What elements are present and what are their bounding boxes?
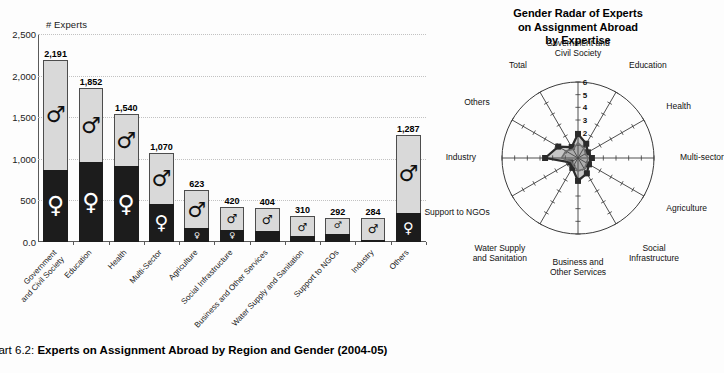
radar-tick bbox=[563, 179, 568, 182]
male-gender-icon: ♂ bbox=[368, 224, 379, 236]
female-gender-icon: ♀ bbox=[403, 221, 414, 236]
radar-axis-label-line: Agriculture bbox=[666, 204, 707, 214]
bar-total-label: 310 bbox=[295, 205, 310, 215]
bar-segment-female[interactable] bbox=[361, 240, 386, 242]
radar-data-marker bbox=[555, 144, 561, 150]
radar-data-marker bbox=[575, 131, 581, 137]
bar-total-label: 2,191 bbox=[44, 49, 67, 59]
radar-tick bbox=[601, 201, 606, 204]
y-axis-tick: 1,000 bbox=[12, 153, 36, 164]
radar-axis-label: SocialInfrastructure bbox=[629, 244, 679, 263]
radar-tick bbox=[621, 181, 624, 186]
radar-tick bbox=[557, 124, 562, 127]
radar-axis-label-line: Health bbox=[666, 102, 691, 112]
female-gender-icon: ♀ bbox=[47, 195, 64, 218]
caption-number: hart 6.2: bbox=[0, 344, 34, 356]
radar-title-line-2: on Assignment Abroad bbox=[432, 21, 724, 35]
bar-group[interactable]: 623♂♀ bbox=[184, 190, 209, 242]
x-axis-label-line: Others bbox=[388, 248, 411, 272]
radar-axis-label-line: Other Services bbox=[550, 268, 606, 278]
bar-segment-female[interactable]: ♀ bbox=[79, 162, 104, 242]
x-axis-label: Multi-Sector bbox=[128, 248, 164, 286]
x-axis-label-line: Education bbox=[63, 248, 94, 281]
radar-axis-label-line: and Sanitation bbox=[473, 254, 527, 264]
radar-tick bbox=[588, 135, 593, 138]
bar-group[interactable]: 292♂ bbox=[325, 218, 350, 242]
bar-segment-female[interactable]: ♀ bbox=[149, 204, 174, 242]
bar-group[interactable]: 2,191♂♀ bbox=[43, 60, 68, 242]
bar-group[interactable]: 284♂ bbox=[361, 218, 386, 242]
bar-group[interactable]: 1,540♂♀ bbox=[114, 114, 139, 242]
female-gender-icon: ♀ bbox=[154, 214, 168, 233]
radar-tick bbox=[538, 91, 543, 94]
radar-tick bbox=[533, 130, 536, 135]
bar-total-label: 292 bbox=[330, 207, 345, 217]
radar-tick bbox=[550, 201, 555, 204]
radar-tick bbox=[614, 223, 619, 226]
radar-scale-label: 3 bbox=[583, 116, 587, 125]
radar-tick bbox=[595, 124, 600, 127]
radar-tick bbox=[533, 181, 536, 186]
bar-segment-male[interactable]: 420♂ bbox=[220, 207, 245, 229]
radar-scale-label: 6 bbox=[583, 78, 587, 87]
y-axis-tick: 1,500 bbox=[12, 112, 36, 123]
radar-axis-label: Industry bbox=[446, 153, 476, 163]
bar-group[interactable]: 1,852♂♀ bbox=[79, 88, 104, 242]
bar-total-label: 1,852 bbox=[80, 77, 103, 87]
radar-data-marker bbox=[584, 170, 590, 176]
bar-segment-male[interactable]: 404♂ bbox=[255, 208, 280, 231]
bar-segment-male[interactable]: 623♂ bbox=[184, 190, 209, 228]
bar-group[interactable]: 404♂ bbox=[255, 208, 280, 242]
x-axis-label: Business and Other Services bbox=[193, 248, 270, 330]
bar-segment-female[interactable]: ♀ bbox=[114, 166, 139, 242]
radar-axis-label: Education bbox=[629, 61, 667, 70]
radar-scale-label: 4 bbox=[583, 103, 587, 112]
radar-tick bbox=[607, 212, 612, 215]
radar-data-marker bbox=[589, 155, 595, 161]
bar-group[interactable]: 1,287♂♀ bbox=[396, 135, 421, 242]
bar-segment-male[interactable]: 310♂ bbox=[290, 216, 315, 236]
bar-segment-female[interactable] bbox=[255, 231, 280, 242]
x-axis-label: Others bbox=[388, 248, 411, 272]
x-axis-label-line: Water Supply and Sanitation bbox=[230, 248, 306, 328]
bar-segment-female[interactable] bbox=[290, 236, 315, 242]
radar-tick bbox=[511, 194, 514, 199]
radar-axis-label: Support to NGOs bbox=[424, 208, 489, 218]
bar-segment-male[interactable]: 292♂ bbox=[325, 218, 350, 234]
x-axis-label: Governmentand Civil Society bbox=[11, 248, 65, 304]
bar-segment-female[interactable]: ♀ bbox=[396, 213, 421, 242]
radar-tick bbox=[621, 130, 624, 135]
bar-total-label: 284 bbox=[366, 207, 381, 217]
bar-total-label: 623 bbox=[189, 179, 204, 189]
bar-segment-male[interactable]: 1,852♂ bbox=[79, 88, 104, 162]
bar-segment-male[interactable]: 1,287♂ bbox=[396, 135, 421, 213]
radar-tick bbox=[522, 124, 525, 129]
bar-segment-male[interactable]: 1,540♂ bbox=[114, 114, 139, 166]
female-gender-icon: ♀ bbox=[229, 232, 235, 240]
bar-segment-female[interactable]: ♀ bbox=[220, 230, 245, 242]
bar-segment-male[interactable]: 1,070♂ bbox=[149, 153, 174, 204]
gridline bbox=[38, 34, 426, 35]
radar-axis-label-line: Education bbox=[629, 61, 667, 70]
bar-group[interactable]: 420♂♀ bbox=[220, 207, 245, 242]
radar-tick bbox=[599, 143, 602, 148]
bar-segment-female[interactable]: ♀ bbox=[184, 228, 209, 242]
radar-tick bbox=[610, 137, 613, 142]
radar-tick bbox=[550, 113, 555, 116]
bar-segment-female[interactable] bbox=[325, 234, 350, 242]
male-gender-icon: ♂ bbox=[81, 115, 101, 137]
bar-segment-female[interactable]: ♀ bbox=[43, 170, 68, 242]
radar-axis-label: Others bbox=[464, 98, 490, 108]
bar-group[interactable]: 1,070♂♀ bbox=[149, 153, 174, 242]
radar-axis-label: Water Supplyand Sanitation bbox=[473, 244, 527, 263]
bar-segment-male[interactable]: 284♂ bbox=[361, 218, 386, 240]
radar-tick bbox=[632, 187, 635, 192]
y-axis-tick: 2,000 bbox=[12, 70, 36, 81]
bar-total-label: 1,070 bbox=[150, 142, 173, 152]
radar-tick bbox=[632, 124, 635, 129]
bar-total-label: 420 bbox=[224, 196, 239, 206]
radar-axis-label-line: Total bbox=[509, 61, 527, 70]
radar-axis-label: Government andCivil Society bbox=[546, 39, 609, 58]
bar-group[interactable]: 310♂ bbox=[290, 216, 315, 242]
bar-segment-male[interactable]: 2,191♂ bbox=[43, 60, 68, 170]
